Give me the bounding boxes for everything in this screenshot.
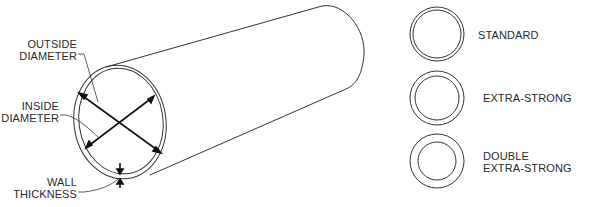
label-line: INSIDE: [0, 100, 59, 112]
label-line: DIAMETER: [0, 112, 59, 124]
label-line: OUTSIDE: [10, 38, 77, 50]
label-line: THICKNESS: [0, 188, 77, 200]
label-line: DOUBLE: [483, 150, 572, 162]
standard-inner-circle: [413, 10, 461, 58]
label-line: WALL: [0, 176, 77, 188]
double-extra-strong-label: DOUBLE EXTRA-STRONG: [483, 150, 572, 174]
inside-diameter-label: INSIDE DIAMETER: [0, 100, 59, 124]
double-extra-strong-inner-circle: [418, 142, 456, 180]
label-line: STANDARD: [478, 29, 539, 41]
pipe-far-end: [322, 6, 364, 89]
extra-strong-inner-circle: [415, 76, 459, 120]
extra-strong-outer-circle: [410, 71, 464, 125]
wall-thickness-label: WALL THICKNESS: [0, 176, 77, 200]
wall-thickness-leader: [78, 179, 118, 192]
label-line: EXTRA-STRONG: [483, 162, 572, 174]
pipe-bottom-edge: [150, 89, 346, 175]
pipe-diagram: OUTSIDE DIAMETER INSIDE DIAMETER WALL TH…: [0, 0, 596, 207]
standard-outer-circle: [410, 7, 464, 61]
pipe-top-edge: [106, 6, 322, 67]
label-line: DIAMETER: [10, 50, 77, 62]
label-line: EXTRA-STRONG: [483, 92, 572, 104]
standard-label: STANDARD: [478, 29, 539, 41]
extra-strong-label: EXTRA-STRONG: [483, 92, 572, 104]
outside-diameter-label: OUTSIDE DIAMETER: [10, 38, 77, 62]
